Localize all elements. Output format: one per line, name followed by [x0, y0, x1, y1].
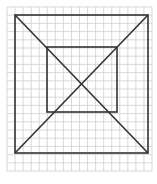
- inner-square: [47, 47, 117, 112]
- grid-paper: [7, 7, 152, 171]
- geometry-diagram: [0, 0, 157, 184]
